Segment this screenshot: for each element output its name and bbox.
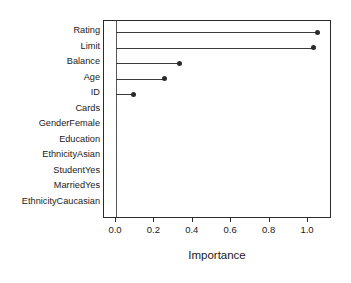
y-axis-label: EthnicityAsian bbox=[42, 150, 100, 159]
zero-baseline bbox=[116, 21, 117, 217]
y-axis-label: EthnicityCaucasian bbox=[22, 197, 100, 206]
plot-panel bbox=[103, 20, 331, 218]
data-point bbox=[315, 30, 320, 35]
x-axis-tick-mark bbox=[307, 218, 308, 222]
y-axis-label: Cards bbox=[75, 104, 100, 113]
x-axis-tick-label: 0.8 bbox=[249, 224, 289, 235]
lollipop-stem bbox=[116, 32, 318, 33]
lollipop-stem bbox=[116, 63, 179, 64]
y-axis-label: ID bbox=[91, 88, 100, 97]
y-axis-category-labels: RatingLimitBalanceAgeIDCardsGenderFemale… bbox=[0, 0, 100, 283]
x-axis-tick-label: 0.6 bbox=[210, 224, 250, 235]
x-axis-tick-label: 0.4 bbox=[172, 224, 212, 235]
x-axis-title: Importance bbox=[103, 249, 331, 261]
y-axis-label: GenderFemale bbox=[39, 119, 100, 128]
x-axis-tick-mark bbox=[269, 218, 270, 222]
x-axis-tick-mark bbox=[115, 218, 116, 222]
data-point bbox=[131, 92, 136, 97]
x-axis-tick-label: 0.2 bbox=[133, 224, 173, 235]
y-axis-label: StudentYes bbox=[53, 166, 100, 175]
data-point bbox=[162, 76, 167, 81]
x-axis-tick-mark bbox=[230, 218, 231, 222]
x-axis-tick-label: 0.0 bbox=[95, 224, 135, 235]
y-axis-label: Rating bbox=[73, 26, 100, 35]
x-axis-tick-label: 1.0 bbox=[287, 224, 327, 235]
data-point bbox=[177, 61, 182, 66]
y-axis-label: Balance bbox=[67, 57, 100, 66]
variable-importance-chart: RatingLimitBalanceAgeIDCardsGenderFemale… bbox=[0, 0, 351, 283]
lollipop-stem bbox=[116, 48, 314, 49]
y-axis-label: Limit bbox=[81, 42, 100, 51]
y-axis-label: Education bbox=[59, 135, 100, 144]
data-point bbox=[311, 45, 316, 50]
x-axis-tick-mark bbox=[192, 218, 193, 222]
y-axis-label: MarriedYes bbox=[54, 181, 100, 190]
lollipop-stem bbox=[116, 79, 164, 80]
x-axis-tick-mark bbox=[153, 218, 154, 222]
y-axis-label: Age bbox=[84, 73, 100, 82]
